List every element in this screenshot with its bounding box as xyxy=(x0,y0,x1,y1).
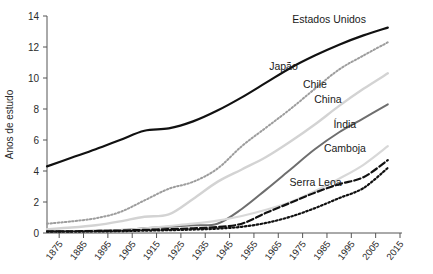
y-tick-label: 2 xyxy=(33,197,39,208)
x-tick-label: 1945 xyxy=(213,238,235,261)
x-tick-label: 1935 xyxy=(189,238,211,261)
y-tick-label: 4 xyxy=(33,166,39,177)
series-label--ndia: Índia xyxy=(333,118,356,130)
x-tick-label: 1915 xyxy=(140,238,162,261)
x-tick-label: 1925 xyxy=(165,238,187,261)
y-tick-label: 8 xyxy=(33,104,39,115)
x-tick-label: 1995 xyxy=(335,238,357,261)
y-tick-label: 6 xyxy=(33,135,39,146)
x-tick-label: 1965 xyxy=(262,238,284,261)
x-tick-label: 1985 xyxy=(311,238,333,261)
x-tick-label: 1885 xyxy=(67,238,89,261)
series-line--ndia xyxy=(47,146,388,232)
y-tick-label: 0 xyxy=(33,228,39,239)
x-tick-label: 1875 xyxy=(43,238,65,261)
y-axis-title: Anos de estudo xyxy=(4,89,15,159)
y-tick-label: 12 xyxy=(28,42,40,53)
y-tick-label: 14 xyxy=(28,11,40,22)
x-tick-label: 1955 xyxy=(238,238,260,261)
x-tick-label: 2005 xyxy=(360,238,382,261)
x-tick-label: 1905 xyxy=(116,238,138,261)
chart-canvas: 0246810121418751885189519051915192519351… xyxy=(0,0,433,274)
x-tick-label: 1975 xyxy=(287,238,309,261)
y-tick-label: 10 xyxy=(28,73,40,84)
series-label-estados-unidos: Estados Unidos xyxy=(292,13,366,25)
series-label-chile: Chile xyxy=(303,78,327,90)
series-label-china: China xyxy=(314,93,342,105)
series-label-camboja: Camboja xyxy=(324,142,366,154)
x-tick-label: 2015 xyxy=(384,238,406,261)
series-label-jap-o: Japão xyxy=(269,60,298,72)
x-tick-label: 1895 xyxy=(92,238,114,261)
line-chart: 0246810121418751885189519051915192519351… xyxy=(0,0,433,274)
series-label-serra-leoa: Serra Leoa xyxy=(290,176,342,188)
